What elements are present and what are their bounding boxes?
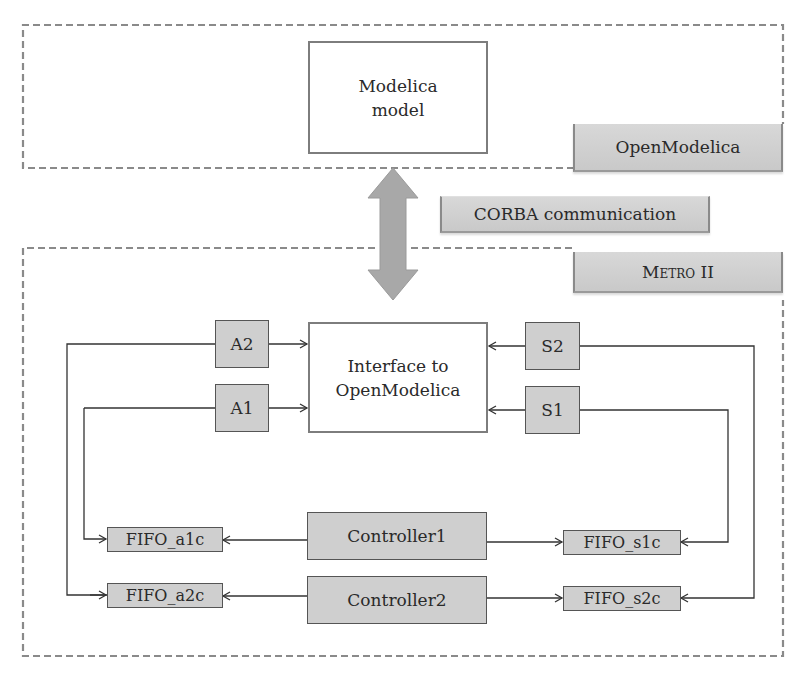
interface-line2: OpenModelica	[336, 378, 461, 402]
fifo-a1c-block: FIFO_a1c	[107, 527, 223, 552]
sensor-s2-block: S2	[525, 322, 580, 370]
interface-line1: Interface to	[347, 354, 448, 378]
corba-communication-label: CORBA communication	[440, 196, 710, 233]
openmodelica-label: OpenModelica	[573, 124, 783, 172]
controller1-label: Controller1	[347, 526, 446, 546]
modelica-model-line1: Modelica	[358, 74, 437, 98]
fifo-s2c-block: FIFO_s2c	[563, 586, 681, 611]
fifo-a2c-label: FIFO_a2c	[126, 586, 204, 605]
sensor-s1-block: S1	[525, 386, 580, 434]
modelica-model-line2: model	[372, 98, 425, 122]
interface-to-openmodelica-block: Interface to OpenModelica	[308, 322, 488, 433]
corba-double-arrow-icon	[368, 168, 418, 300]
sensor-s2-label: S2	[541, 336, 563, 356]
actuator-a2-block: A2	[215, 320, 269, 368]
fifo-a2c-block: FIFO_a2c	[107, 583, 223, 608]
fifo-a1c-label: FIFO_a1c	[126, 530, 204, 549]
modelica-model-block: Modelica model	[308, 41, 488, 154]
actuator-a2-label: A2	[230, 334, 253, 354]
actuator-a1-label: A1	[230, 398, 253, 418]
sensor-s1-label: S1	[541, 400, 563, 420]
fifo-s1c-label: FIFO_s1c	[584, 533, 661, 552]
openmodelica-label-text: OpenModelica	[616, 137, 741, 157]
metro-ii-label: Metro II	[573, 252, 783, 293]
metro-ii-label-text: Metro II	[642, 262, 714, 282]
actuator-a1-block: A1	[215, 384, 269, 432]
fifo-s2c-label: FIFO_s2c	[584, 589, 661, 608]
fifo-s1c-block: FIFO_s1c	[563, 530, 681, 555]
controller2-label: Controller2	[347, 590, 446, 610]
corba-communication-text: CORBA communication	[474, 204, 676, 224]
controller2-block: Controller2	[307, 576, 487, 624]
controller1-block: Controller1	[307, 512, 487, 560]
